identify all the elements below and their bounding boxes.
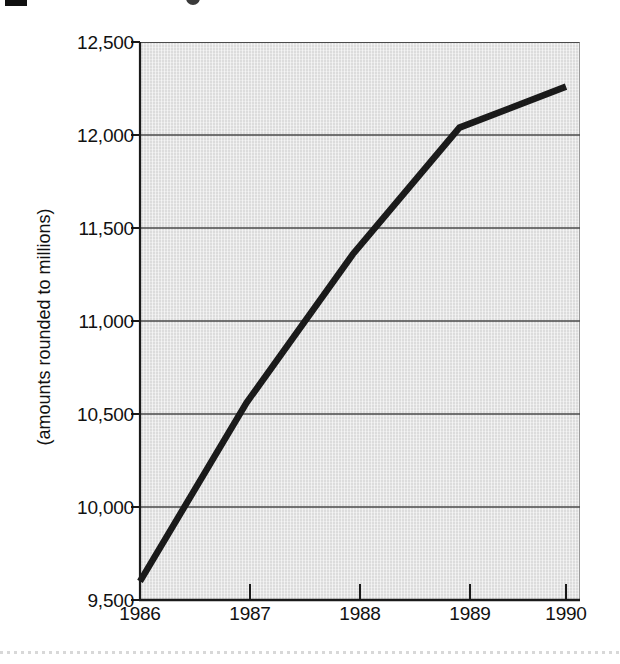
x-tick-label: 1988 xyxy=(320,604,400,623)
x-axis-ticks xyxy=(140,584,566,600)
x-tick-label: 1990 xyxy=(526,604,606,623)
line-chart: 12,500 12,000 11,500 11,000 10,500 10,00… xyxy=(0,0,620,640)
x-tick-label: 1986 xyxy=(100,604,180,623)
plot-canvas xyxy=(140,42,580,600)
x-tick-label: 1989 xyxy=(430,604,510,623)
y-tick-label: 10,000 xyxy=(22,498,134,517)
x-tick-label: 1987 xyxy=(210,604,290,623)
y-tick-label: 12,500 xyxy=(22,33,134,52)
gridlines xyxy=(140,135,580,507)
bottom-scan-artifact xyxy=(0,651,620,654)
y-axis-title: (amounts rounded to millions) xyxy=(35,187,53,467)
y-tick-label: 12,000 xyxy=(22,126,134,145)
